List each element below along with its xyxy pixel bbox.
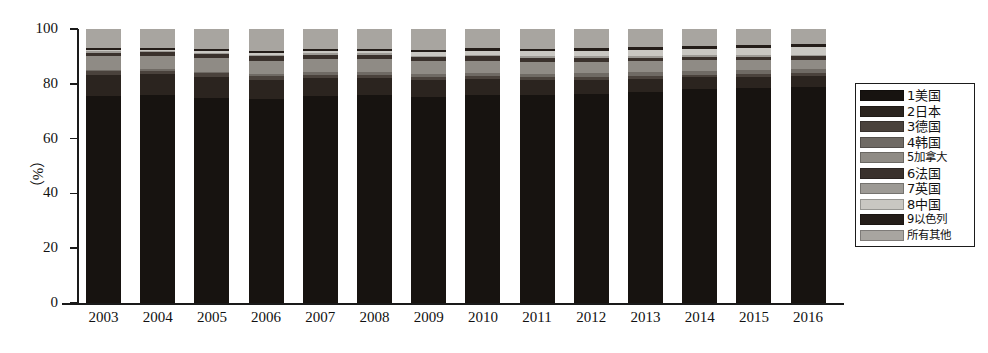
bar-segment-2日本 [303, 78, 338, 96]
legend-swatch-icon [860, 121, 904, 132]
bar-segment-2日本 [249, 80, 284, 99]
bar-2011 [520, 29, 555, 303]
legend-item[interactable]: 7英国 [860, 181, 971, 196]
bar-segment-所有其他 [303, 29, 338, 49]
bar-segment-5加拿大 [574, 62, 609, 74]
legend-item[interactable]: 5加拿大 [860, 150, 971, 165]
bar-segment-5加拿大 [682, 60, 717, 70]
legend-swatch-icon [860, 168, 904, 179]
bar-2008 [357, 29, 392, 303]
legend-label: 2日本 [907, 105, 941, 118]
legend-label: 6法国 [907, 167, 941, 180]
bar-2007 [303, 29, 338, 303]
bar-2013 [628, 29, 663, 303]
bar-segment-1美国 [411, 97, 446, 303]
bar-2006 [249, 29, 284, 303]
bar-2003 [86, 29, 121, 303]
stacked-bar-chart: （%） 020406080100 20032004200520062007200… [0, 0, 988, 353]
bar-segment-5加拿大 [791, 60, 826, 70]
bar-segment-5加拿大 [465, 61, 500, 73]
x-axis-tick-label: 2012 [563, 309, 619, 326]
bar-2004 [140, 29, 175, 303]
legend-label: 1美国 [907, 89, 941, 102]
bar-segment-2日本 [628, 79, 663, 92]
bar-segment-2日本 [140, 74, 175, 95]
bar-segment-2日本 [520, 80, 555, 95]
bar-2005 [194, 29, 229, 303]
bar-2012 [574, 29, 609, 303]
bar-segment-1美国 [574, 94, 609, 303]
bar-segment-所有其他 [520, 29, 555, 48]
bar-segment-1美国 [86, 96, 121, 303]
bar-segment-1美国 [140, 95, 175, 303]
bar-segment-5加拿大 [411, 61, 446, 74]
bar-segment-1美国 [249, 99, 284, 303]
legend-label: 5加拿大 [907, 151, 947, 164]
bar-segment-所有其他 [736, 29, 771, 45]
x-axis-tick-label: 2010 [455, 309, 511, 326]
bar-segment-1美国 [520, 95, 555, 303]
bar-segment-2日本 [194, 77, 229, 98]
bar-segment-1美国 [357, 95, 392, 303]
bar-segment-1美国 [303, 96, 338, 303]
x-axis-tick-label: 2006 [238, 309, 294, 326]
legend-swatch-icon [860, 183, 904, 194]
legend-item[interactable]: 2日本 [860, 104, 971, 119]
bar-segment-5加拿大 [249, 61, 284, 75]
x-axis-tick-label: 2016 [780, 309, 836, 326]
legend-item[interactable]: 4韩国 [860, 135, 971, 150]
bar-segment-1美国 [791, 87, 826, 303]
x-axis-tick-label: 2013 [618, 309, 674, 326]
bar-segment-1美国 [682, 89, 717, 303]
bar-segment-1美国 [465, 95, 500, 303]
bar-segment-8中国 [791, 47, 826, 55]
bar-segment-5加拿大 [520, 62, 555, 74]
x-axis-tick-label: 2008 [347, 309, 403, 326]
bar-segment-所有其他 [465, 29, 500, 48]
bar-segment-2日本 [791, 76, 826, 86]
legend: 1美国2日本3德国4韩国5加拿大6法国7英国8中国9以色列所有其他 [855, 83, 975, 247]
bar-segment-所有其他 [791, 29, 826, 44]
bar-segment-1美国 [736, 88, 771, 303]
bar-segment-5加拿大 [628, 61, 663, 72]
bar-segment-2日本 [86, 75, 121, 97]
legend-swatch-icon [860, 214, 904, 225]
bar-segment-所有其他 [140, 29, 175, 48]
plot-area: 2003200420052006200720082009201020112012… [0, 0, 988, 353]
legend-swatch-icon [860, 152, 904, 163]
bar-2010 [465, 29, 500, 303]
x-axis-tick-label: 2015 [726, 309, 782, 326]
bar-segment-5加拿大 [736, 60, 771, 70]
legend-swatch-icon [860, 230, 904, 241]
legend-item[interactable]: 1美国 [860, 88, 971, 103]
legend-label: 8中国 [907, 198, 941, 211]
legend-label: 9以色列 [907, 213, 947, 226]
bar-segment-5加拿大 [140, 56, 175, 69]
legend-item[interactable]: 3德国 [860, 119, 971, 134]
legend-swatch-icon [860, 137, 904, 148]
bar-segment-所有其他 [357, 29, 392, 48]
bar-segment-所有其他 [249, 29, 284, 51]
bar-segment-所有其他 [574, 29, 609, 48]
legend-label: 4韩国 [907, 136, 941, 149]
legend-swatch-icon [860, 106, 904, 117]
legend-item[interactable]: 8中国 [860, 197, 971, 212]
legend-item[interactable]: 6法国 [860, 166, 971, 181]
legend-label: 7英国 [907, 182, 941, 195]
bar-segment-5加拿大 [357, 59, 392, 72]
bar-segment-1美国 [194, 98, 229, 304]
bar-2014 [682, 29, 717, 303]
bar-segment-2日本 [574, 80, 609, 94]
bar-segment-所有其他 [86, 29, 121, 48]
bar-segment-所有其他 [411, 29, 446, 50]
bar-2009 [411, 29, 446, 303]
bar-2015 [736, 29, 771, 303]
bar-segment-1美国 [628, 92, 663, 303]
legend-item[interactable]: 所有其他 [860, 228, 971, 243]
legend-swatch-icon [860, 90, 904, 101]
legend-item[interactable]: 9以色列 [860, 212, 971, 227]
legend-label: 3德国 [907, 120, 941, 133]
bar-segment-2日本 [465, 79, 500, 95]
bar-segment-2日本 [736, 77, 771, 88]
x-axis-tick-label: 2007 [292, 309, 348, 326]
